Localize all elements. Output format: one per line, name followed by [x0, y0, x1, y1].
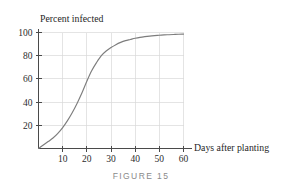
chart-plot: 20406080100 102030405060 Percent infecte… [0, 0, 282, 193]
x-tick-label: 40 [130, 154, 140, 164]
x-tick-label: 20 [82, 154, 92, 164]
y-tick-label: 60 [23, 74, 33, 84]
x-tick-label: 30 [106, 154, 116, 164]
y-tick-label: 100 [18, 28, 33, 38]
y-tick-labels: 20406080100 [18, 28, 33, 131]
y-tick-label: 40 [23, 98, 33, 108]
x-axis-title: Days after planting [194, 142, 269, 153]
x-tick-labels: 102030405060 [58, 154, 189, 164]
figure-container: 20406080100 102030405060 Percent infecte… [0, 0, 282, 193]
y-tick-label: 20 [23, 121, 33, 131]
figure-caption: FIGURE 15 [0, 171, 282, 181]
y-tick-label: 80 [23, 51, 33, 61]
x-tick-label: 60 [179, 154, 189, 164]
axis-lines [39, 29, 192, 149]
y-axis-title: Percent infected [40, 13, 103, 24]
x-tick-label: 50 [155, 154, 165, 164]
x-tick-label: 10 [58, 154, 68, 164]
